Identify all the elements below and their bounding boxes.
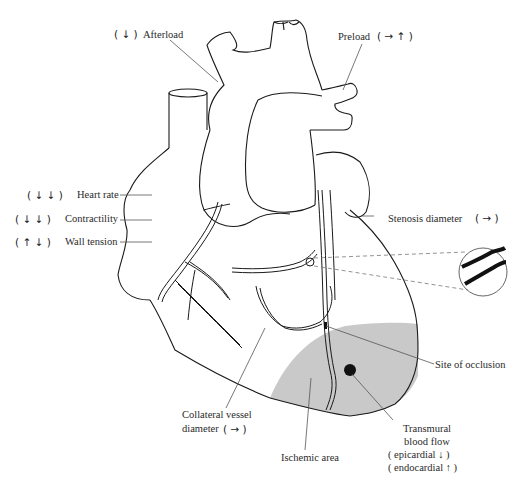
transmural-endocardial: ( endocardial ↑ ) [388,462,457,474]
transmural-epicardial: ( epicardial ↓ ) [388,449,450,461]
stenosis-inset [459,248,507,296]
afterload-label: Afterload [143,29,183,41]
ischemic-area-label: Ischemic area [281,452,339,464]
contractility-arrows: ( ↓ ↓ ) [15,213,51,225]
site-of-occlusion-label: Site of occlusion [435,359,506,371]
collateral-vessel-label-line1: Collateral vessel [182,409,252,421]
stenosis-diameter-label: Stenosis diameter [388,213,462,225]
wall-tension-arrows: ( ↑ ↓ ) [15,236,51,248]
heart-ischemia-diagram: ( ↓ ) Afterload Preload ( → ↑ ) ( ↓ ↓ ) … [0,0,518,482]
wall-tension-label: Wall tension [65,236,118,248]
ischemic-area-shading [270,323,418,416]
contractility-label: Contractility [65,213,118,225]
collateral-vessel-label-line2: diameter [182,423,219,435]
transmural-label-line1: Transmural [382,423,472,435]
collateral-vessel-arrows: ( → ) [223,423,247,435]
transmural-flow-dot [344,364,356,376]
preload-label: Preload [338,31,370,43]
superior-vena-cava [169,89,207,148]
heart-rate-label: Heart rate [77,189,119,201]
pulmonary-veins [258,83,357,130]
occlusion-marker [324,322,327,329]
afterload-arrows: ( ↓ ) [114,28,138,40]
transmural-label-line2: blood flow [382,436,472,448]
stenosis-connectors [314,252,468,290]
preload-arrows: ( → ↑ ) [377,30,413,42]
heart-rate-arrows: ( ↓ ↓ ) [27,189,63,201]
stenosis-diameter-arrows: ( → ) [475,212,499,224]
great-vessels [207,20,322,130]
